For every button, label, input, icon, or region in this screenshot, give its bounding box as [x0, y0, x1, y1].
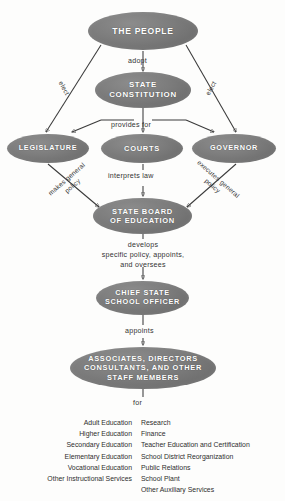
node-legislature-label: LEGISLATURE: [7, 144, 89, 153]
function-list-left-item: Other Instructional Services: [0, 473, 132, 484]
function-list-left-item: Higher Education: [0, 428, 132, 439]
function-list-right-column: ResearchFinanceTeacher Education and Cer…: [141, 417, 285, 495]
edge-label-provides-for: provides for: [111, 121, 151, 129]
node-courts[interactable]: COURTS: [101, 134, 183, 163]
function-list-left-item: Secondary Education: [0, 439, 132, 450]
node-state-board-of-education[interactable]: STATE BOARD OF EDUCATION: [93, 198, 192, 234]
edge-people-legislature: [46, 45, 101, 132]
node-legislature[interactable]: LEGISLATURE: [7, 134, 89, 163]
edge-label-develops-line2: specific policy, appoints,: [102, 251, 184, 259]
node-state-constitution-line2: CONSTITUTION: [109, 90, 177, 99]
edge-bus-legislature: [72, 120, 101, 132]
node-governor[interactable]: GOVERNOR: [192, 134, 276, 163]
function-list-left-item: Elementary Education: [0, 451, 132, 462]
node-staff-members[interactable]: ASSOCIATES, DIRECTORS CONSULTANTS, AND O…: [70, 347, 216, 389]
edge-label-develops-line1: develops: [128, 241, 158, 249]
node-chief-state-school-officer[interactable]: CHIEF STATE SCHOOL OFFICER: [96, 281, 189, 315]
edge-label-interprets-law: interprets law: [108, 172, 154, 180]
edge-label-develops-line3: and oversees: [120, 261, 166, 269]
function-list-right-item: Other Auxiliary Services: [141, 484, 285, 495]
node-chief-officer-line2: SCHOOL OFFICER: [105, 297, 180, 306]
function-list-right-item: School District Reorganization: [141, 451, 285, 462]
node-chief-officer-line1: CHIEF STATE: [115, 288, 169, 297]
function-list-right-item: Research: [141, 417, 285, 428]
node-state-constitution[interactable]: STATE CONSTITUTION: [95, 72, 191, 108]
node-state-board-line2: OF EDUCATION: [110, 216, 175, 225]
function-list-left-item: Adult Education: [0, 417, 132, 428]
node-governor-label: GOVERNOR: [192, 144, 276, 153]
node-courts-label: COURTS: [101, 144, 183, 153]
node-the-people[interactable]: THE PEOPLE: [88, 12, 198, 50]
node-state-constitution-line1: STATE: [129, 80, 157, 89]
function-list-right-item: Teacher Education and Certification: [141, 439, 285, 450]
edge-label-for: for: [133, 399, 142, 407]
node-staff-line1: ASSOCIATES, DIRECTORS: [88, 354, 198, 363]
function-lists: Adult EducationHigher EducationSecondary…: [0, 417, 285, 495]
function-list-right-item: Finance: [141, 428, 285, 439]
node-staff-line2: CONSULTANTS, AND OTHER: [84, 363, 202, 372]
node-the-people-label: THE PEOPLE: [88, 26, 198, 36]
node-state-board-label: STATE BOARD OF EDUCATION: [93, 207, 192, 225]
edge-label-develops: develops specific policy, appoints, and …: [85, 240, 201, 270]
edge-label-adopt: adopt: [128, 57, 147, 65]
node-state-board-line1: STATE BOARD: [112, 207, 173, 216]
function-list-left-item: Vocational Education: [0, 462, 132, 473]
function-list-left-column: Adult EducationHigher EducationSecondary…: [0, 417, 141, 484]
edge-bus-governor: [186, 120, 214, 132]
function-list-right-item: School Plant: [141, 473, 285, 484]
node-staff-members-label: ASSOCIATES, DIRECTORS CONSULTANTS, AND O…: [70, 354, 216, 381]
node-state-constitution-label: STATE CONSTITUTION: [95, 80, 191, 99]
function-list-right-item: Public Relations: [141, 462, 285, 473]
node-chief-officer-label: CHIEF STATE SCHOOL OFFICER: [96, 289, 189, 307]
edge-label-appoints: appoints: [125, 327, 154, 335]
organization-chart: THE PEOPLE STATE CONSTITUTION LEGISLATUR…: [0, 0, 285, 501]
node-staff-line3: STAFF MEMBERS: [107, 373, 179, 382]
